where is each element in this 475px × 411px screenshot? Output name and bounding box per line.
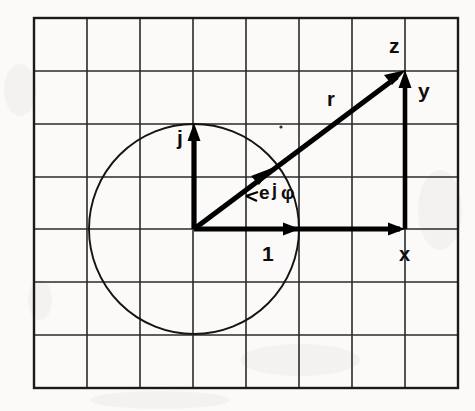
label-j: j — [176, 126, 183, 149]
label-ejphi-j: j — [271, 180, 277, 200]
label-one: 1 — [262, 242, 274, 265]
ink-speck — [279, 125, 282, 128]
phasor-diagram-figure: z r y x 1 j e j φ — [0, 0, 475, 411]
label-x: x — [399, 243, 410, 265]
label-r: r — [327, 88, 335, 110]
label-ejphi-phi: φ — [281, 182, 295, 203]
label-y: y — [418, 79, 430, 102]
label-ejphi: e j φ — [259, 180, 295, 203]
phasor-diagram-canvas: z r y x 1 j e j φ — [0, 0, 475, 411]
label-ejphi-e: e — [259, 182, 270, 203]
label-z: z — [389, 34, 400, 57]
